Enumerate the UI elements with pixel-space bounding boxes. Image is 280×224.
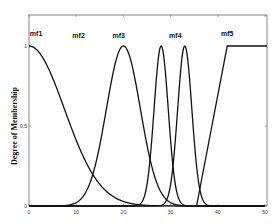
- x-tick-label: 50: [262, 209, 268, 215]
- y-axis-label: Degree of Membership: [10, 86, 19, 165]
- membership-function-chart: 0102030405000.51 mf1mf2mf3mf4mf5 Degree …: [0, 0, 280, 224]
- x-tick-label: 40: [215, 209, 221, 215]
- label-mf3: mf3: [112, 32, 125, 39]
- y-tick-label: 0.5: [20, 123, 27, 129]
- y-tick-label: 1: [24, 43, 27, 49]
- x-tick-label: 30: [168, 209, 174, 215]
- x-tick-label: 0: [28, 209, 31, 215]
- label-mf4: mf4: [169, 32, 182, 39]
- x-tick-label: 10: [73, 209, 79, 215]
- mf-labels: mf1mf2mf3mf4mf5: [30, 30, 234, 39]
- label-mf1: mf1: [30, 30, 43, 37]
- label-mf2: mf2: [72, 32, 85, 39]
- curve-mf4a: [29, 46, 265, 206]
- curves: [29, 46, 267, 206]
- curve-mf5: [197, 46, 267, 206]
- y-tick-label: 0: [24, 203, 27, 209]
- axis-ticks: 0102030405000.51: [20, 15, 268, 215]
- label-mf5: mf5: [221, 30, 234, 37]
- x-tick-label: 20: [121, 209, 127, 215]
